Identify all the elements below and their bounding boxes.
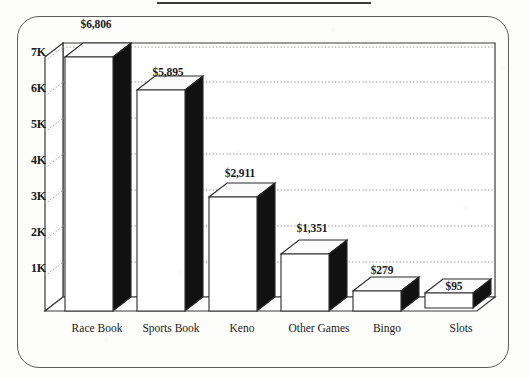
bar-front-face bbox=[209, 197, 257, 311]
y-tick-label-2k: 2K bbox=[12, 225, 46, 240]
plot-left-wall bbox=[45, 43, 63, 311]
y-tick-label-1k: 1K bbox=[12, 261, 46, 276]
bar-front-face bbox=[353, 291, 401, 311]
value-label-slots: $95 bbox=[432, 280, 476, 292]
page-title-underline bbox=[157, 2, 371, 4]
y-tick-label-7k: 7K bbox=[12, 45, 46, 60]
y-tick-label-3k: 3K bbox=[12, 189, 46, 204]
value-label-race-book: $6,806 bbox=[66, 18, 126, 30]
bar-race-book[interactable] bbox=[65, 43, 131, 311]
y-tick-label-5k: 5K bbox=[12, 117, 46, 132]
x-tick-label-bingo: Bingo bbox=[352, 322, 422, 334]
bar-front-face bbox=[137, 90, 185, 311]
value-label-bingo: $279 bbox=[356, 264, 408, 276]
bar-sports-book[interactable] bbox=[137, 76, 203, 311]
bar-front-face bbox=[425, 293, 473, 308]
value-label-keno: $2,911 bbox=[210, 167, 270, 179]
x-tick-label-slots: Slots bbox=[430, 322, 492, 334]
bar-front-face bbox=[281, 254, 329, 311]
bar-side-face bbox=[113, 43, 131, 311]
y-tick-label-4k: 4K bbox=[12, 153, 46, 168]
value-label-sports-book: $5,895 bbox=[138, 66, 198, 78]
y-tick-label-6k: 6K bbox=[12, 81, 46, 96]
bar-side-face bbox=[185, 76, 203, 311]
bar-front-face bbox=[65, 57, 113, 311]
value-label-other-games: $1,351 bbox=[282, 222, 342, 234]
x-tick-label-sports-book: Sports Book bbox=[126, 322, 216, 334]
bar-side-face bbox=[257, 183, 275, 311]
bar-keno[interactable] bbox=[209, 183, 275, 311]
bar-other-games[interactable] bbox=[281, 240, 347, 311]
